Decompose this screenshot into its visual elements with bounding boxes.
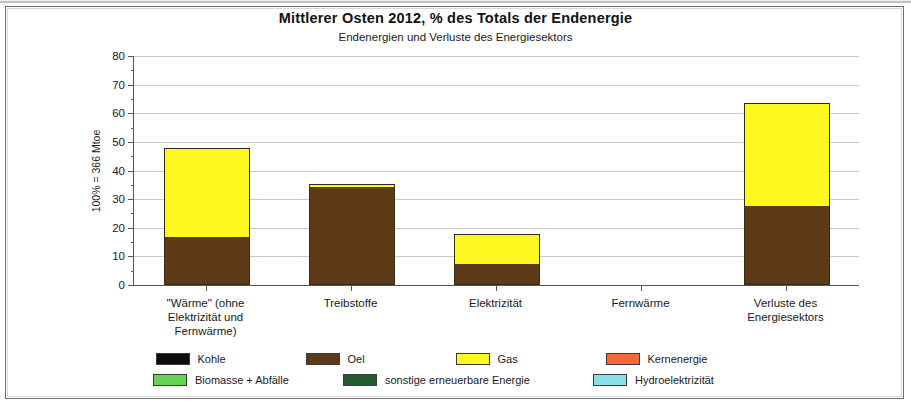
x-axis-tick (206, 285, 207, 291)
bar-stack[interactable] (454, 234, 540, 285)
bar-slot (424, 56, 569, 285)
y-axis-title-text: 100% = 366 Mtoe (90, 129, 102, 212)
legend-swatch (156, 353, 190, 365)
y-axis-tick-label: 20 (112, 222, 125, 234)
x-axis-tick (786, 285, 787, 291)
legend-label: Oel (348, 353, 365, 365)
x-axis-category-line: Verluste des (713, 296, 858, 310)
x-axis-category-label: Elektrizität (423, 296, 568, 310)
legend-label: Kernenergie (648, 353, 708, 365)
x-axis-category-label: Verluste desEnergiesektors (713, 296, 858, 324)
legend-swatch (343, 374, 377, 386)
legend-swatch (456, 353, 490, 365)
x-axis-category-line: Treibstoffe (278, 296, 423, 310)
y-axis-tick-label: 30 (112, 193, 125, 205)
bar-segment-gas (744, 103, 830, 206)
x-axis-category-line: "Wärme" (ohne (133, 296, 278, 310)
y-axis-tick-label: 40 (112, 165, 125, 177)
legend-item: Oel (306, 353, 456, 365)
bar-segment-oel (309, 187, 395, 284)
bar-segment-oel (164, 237, 250, 284)
y-axis-title: 100% = 366 Mtoe (88, 56, 104, 285)
y-axis-tick-label: 80 (112, 50, 125, 62)
bar-stack[interactable] (309, 184, 395, 285)
legend-row-primary: KohleOelGasKernenergie (0, 348, 911, 369)
legend-label: Biomasse + Abfälle (195, 374, 289, 386)
legend-swatch (306, 353, 340, 365)
x-axis-category-label: Fernwärme (568, 296, 713, 310)
y-axis-tick-label: 70 (112, 79, 125, 91)
legend-item: Kernenergie (606, 353, 756, 365)
legend-label: Hydroelektrizität (635, 374, 714, 386)
chart-legend: KohleOelGasKernenergie Biomasse + Abfäll… (0, 348, 911, 390)
legend-label: Kohle (198, 353, 226, 365)
bar-segment-oel (454, 264, 540, 284)
bar-series-layer (134, 56, 859, 285)
chart-subtitle: Endenergien und Verluste des Energiesekt… (0, 31, 911, 43)
bar-slot (279, 56, 424, 285)
x-axis-labels: "Wärme" (ohneElektrizität undFernwärme)T… (133, 285, 858, 345)
legend-label: sonstige erneuerbare Energie (385, 374, 530, 386)
bar-stack[interactable] (164, 148, 250, 285)
x-axis-category-label: Treibstoffe (278, 296, 423, 310)
y-axis-tick-label: 50 (112, 136, 125, 148)
bar-segment-gas (164, 148, 250, 237)
legend-item: sonstige erneuerbare Energie (343, 374, 593, 386)
legend-swatch (593, 374, 627, 386)
legend-row-secondary: Biomasse + Abfällesonstige erneuerbare E… (0, 369, 911, 390)
bar-segment-oel (744, 206, 830, 283)
y-axis-tick-label: 10 (112, 250, 125, 262)
chart-title: Mittlerer Osten 2012, % des Totals der E… (0, 10, 911, 26)
legend-swatch (606, 353, 640, 365)
plot-area: 01020304050607080 (133, 56, 859, 286)
legend-swatch (153, 374, 187, 386)
y-axis-tick-label: 0 (119, 279, 125, 291)
x-axis-tick (351, 285, 352, 291)
x-axis-tick (641, 285, 642, 291)
bar-stack[interactable] (744, 103, 830, 285)
bar-slot (134, 56, 279, 285)
x-axis-category-line: Energiesektors (713, 310, 858, 324)
legend-item: Gas (456, 353, 606, 365)
x-axis-category-line: Elektrizität (423, 296, 568, 310)
y-axis-tick-label: 60 (112, 107, 125, 119)
x-axis-category-label: "Wärme" (ohneElektrizität undFernwärme) (133, 296, 278, 338)
x-axis-category-line: Fernwärme (568, 296, 713, 310)
x-axis-category-line: Elektrizität und (133, 310, 278, 324)
legend-item: Hydroelektrizität (593, 374, 758, 386)
legend-item: Kohle (156, 353, 306, 365)
x-axis-category-line: Fernwärme) (133, 324, 278, 338)
legend-label: Gas (498, 353, 518, 365)
legend-item: Biomasse + Abfälle (153, 374, 343, 386)
scan-artifact-top (0, 0, 911, 3)
bar-slot (569, 56, 714, 285)
bar-segment-gas (454, 234, 540, 264)
bar-slot (714, 56, 859, 285)
x-axis-tick (496, 285, 497, 291)
